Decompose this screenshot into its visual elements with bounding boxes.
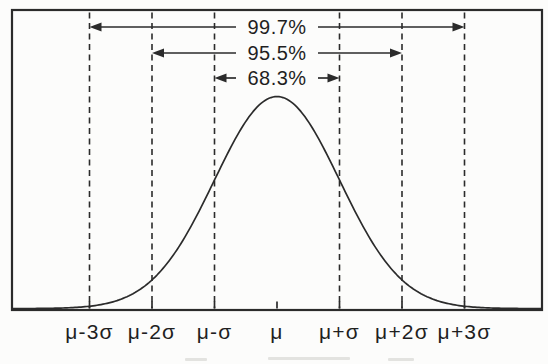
cropped-caption-remnant [185,358,207,361]
coverage-arrow: 68.3% [215,67,340,89]
cropped-caption-remnant [268,357,350,360]
x-tick-label: μ [270,320,283,343]
x-tick-label: μ+3σ [438,320,492,343]
arrowhead-right-icon [453,22,465,31]
cropped-caption-remnant [388,358,414,361]
coverage-percentage-label: 95.5% [247,42,306,64]
arrowhead-left-icon [90,22,102,31]
coverage-arrow: 95.5% [152,42,402,64]
x-tick-label: μ-2σ [128,320,177,343]
x-tick-label: μ-σ [197,320,233,343]
normal-distribution-figure: μ-3σμ-2σμ-σμμ+σμ+2σμ+3σ99.7%95.5%68.3% [0,0,548,364]
bell-curve [13,97,541,309]
x-tick-label: μ+σ [319,320,360,343]
arrowhead-right-icon [328,73,340,82]
coverage-arrow: 99.7% [90,16,465,38]
coverage-percentage-label: 99.7% [247,16,306,38]
coverage-percentage-label: 68.3% [247,67,306,89]
normal-distribution-chart: μ-3σμ-2σμ-σμμ+σμ+2σμ+3σ99.7%95.5%68.3% [0,0,548,364]
arrowhead-right-icon [390,48,402,57]
arrowhead-left-icon [152,48,164,57]
x-tick-label: μ-3σ [65,320,114,343]
arrowhead-left-icon [215,73,227,82]
x-tick-label: μ+2σ [375,320,429,343]
